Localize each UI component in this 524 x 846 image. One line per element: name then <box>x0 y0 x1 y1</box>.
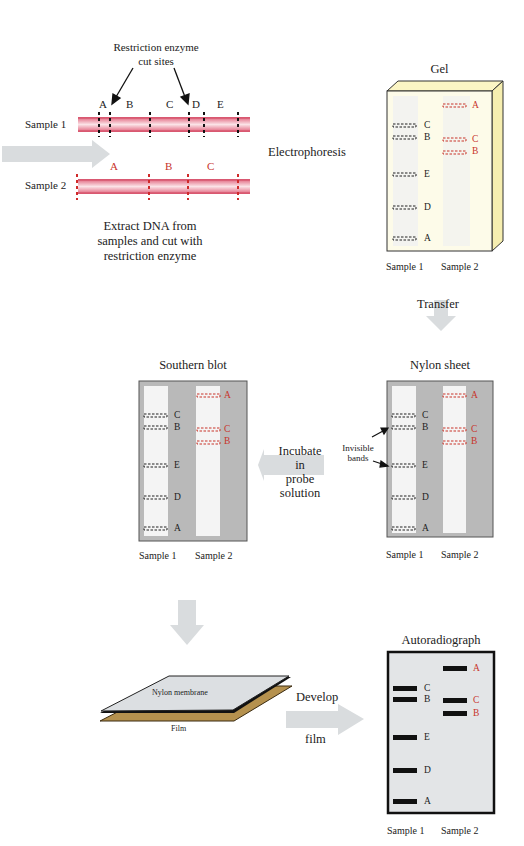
fragment-label: A <box>99 98 107 110</box>
band-label: C <box>473 695 479 705</box>
develop-label: Develop <box>296 690 338 705</box>
sample2-dna-strand <box>77 174 250 200</box>
band-label: E <box>422 460 428 470</box>
fragment-label: A <box>110 160 118 172</box>
band-label: A <box>472 100 479 110</box>
band-label: C <box>471 424 477 434</box>
electrophoresis-label: Electrophoresis <box>268 145 346 160</box>
band-label: E <box>424 732 430 742</box>
annotation-line: Invisible <box>336 443 380 453</box>
annotation-line: bands <box>336 453 380 463</box>
extract-dna-caption: Extract DNA from samples and cut with re… <box>85 219 215 264</box>
film-label: Film <box>171 724 186 733</box>
band-label: B <box>424 694 430 704</box>
southern-blot-title: Southern blot <box>139 358 247 373</box>
fragment-label: B <box>126 98 133 110</box>
caption-line: samples and cut with <box>85 234 215 249</box>
autoradiograph-title: Autoradiograph <box>388 633 494 648</box>
band-label: B <box>224 436 230 446</box>
band-label: B <box>472 146 478 156</box>
caption-line: restriction enzyme <box>85 249 215 264</box>
band-label: B <box>174 422 180 432</box>
band-label: C <box>224 424 230 434</box>
gel-lane1-label: Sample 1 <box>386 261 424 272</box>
incubate-label: Incubate in probe solution <box>270 444 330 500</box>
band-label: B <box>473 708 479 718</box>
incubate-line: probe <box>270 472 330 486</box>
nylon-lane1-label: Sample 1 <box>386 549 424 560</box>
southern-lane1-label: Sample 1 <box>139 550 177 561</box>
band-label: E <box>174 460 180 470</box>
band-label: C <box>174 410 180 420</box>
incubate-line: solution <box>270 486 330 500</box>
sample1-label: Sample 1 <box>25 118 66 130</box>
band-label: A <box>424 796 431 806</box>
band-label: D <box>424 765 431 775</box>
autoradiograph-panel <box>388 652 494 813</box>
gel-title: Gel <box>387 62 492 77</box>
band-label: E <box>424 169 430 179</box>
gel-slab <box>387 81 503 251</box>
band-label: C <box>472 134 478 144</box>
nylon-lane2-label: Sample 2 <box>441 549 479 560</box>
fragment-label: E <box>217 98 224 110</box>
band-label: A <box>174 523 181 533</box>
nylon-membrane-label: Nylon membrane <box>152 688 208 697</box>
band-label: D <box>174 492 181 502</box>
incubate-line: in <box>270 458 330 472</box>
band-label: A <box>224 390 231 400</box>
fragment-label: C <box>166 98 173 110</box>
southern-blot-panel <box>139 381 247 541</box>
band-label: D <box>422 492 429 502</box>
band-label: C <box>422 410 428 420</box>
cut-sites-callout: Restriction enzyme cut sites <box>108 40 204 68</box>
band-label: B <box>424 132 430 142</box>
band-label: A <box>473 663 480 673</box>
sample2-label: Sample 2 <box>25 179 66 191</box>
transfer-label: Transfer <box>417 297 459 312</box>
fragment-label: C <box>207 160 214 172</box>
membrane-film-stack <box>100 676 292 721</box>
nylon-sheet-panel <box>387 381 493 537</box>
develop-arrow <box>286 704 364 735</box>
autorad-lane2-label: Sample 2 <box>441 825 479 836</box>
electrophoresis-arrow <box>2 140 110 168</box>
southern-lane2-label: Sample 2 <box>195 550 233 561</box>
band-label: B <box>422 422 428 432</box>
diagram-graphics <box>0 0 524 846</box>
band-label: C <box>424 120 430 130</box>
incubate-line: Incubate <box>270 444 330 458</box>
gel-lane2-label: Sample 2 <box>441 261 479 272</box>
callout-line: cut sites <box>108 54 204 68</box>
caption-line: Extract DNA from <box>85 219 215 234</box>
band-label: A <box>471 390 478 400</box>
fragment-label: D <box>192 98 200 110</box>
band-label: B <box>471 436 477 446</box>
band-label: D <box>424 202 431 212</box>
band-label: A <box>422 523 429 533</box>
down-arrow <box>170 600 204 645</box>
callout-line: Restriction enzyme <box>108 40 204 54</box>
band-label: C <box>424 683 430 693</box>
band-label: A <box>424 233 431 243</box>
film-step-label: film <box>305 732 326 747</box>
cut-site-pointer-arrows <box>112 68 189 104</box>
autorad-lane1-label: Sample 1 <box>387 825 425 836</box>
sample1-dna-strand <box>78 112 250 137</box>
invisible-bands-annotation: Invisible bands <box>336 443 380 463</box>
nylon-sheet-title: Nylon sheet <box>387 358 493 373</box>
fragment-label: B <box>165 160 172 172</box>
